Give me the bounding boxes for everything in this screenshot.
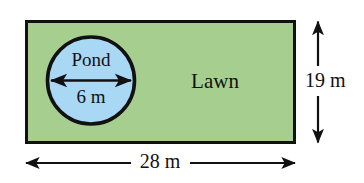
diagram-figure: Pond 6 m Lawn 19 m 28 m [0, 0, 364, 183]
lawn-label: Lawn [191, 69, 239, 93]
pond-label: Pond [71, 49, 111, 70]
width-dimension-label: 28 m [140, 150, 181, 172]
diagram-canvas: Pond 6 m Lawn 19 m 28 m [0, 0, 364, 183]
height-dimension-label: 19 m [305, 69, 346, 91]
pond-diameter-label: 6 m [76, 86, 105, 107]
